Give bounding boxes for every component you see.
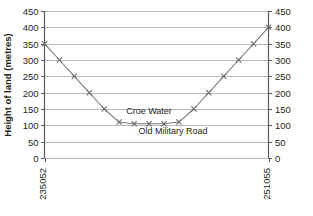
y-axis-tick-label: 350 bbox=[23, 39, 39, 50]
x-axis-label: 235052 bbox=[37, 168, 48, 200]
y-axis-tick-label: 100 bbox=[23, 120, 39, 131]
y-axis-tick-label: 0 bbox=[275, 153, 280, 164]
chart-container: 050100150200250300350400450 050100150200… bbox=[0, 0, 313, 216]
y-axis-tick-label: 100 bbox=[275, 120, 291, 131]
y-axis-tick-label: 450 bbox=[23, 6, 39, 17]
annotation-label: Old Military Road bbox=[138, 126, 207, 136]
y-axis-tick-label: 200 bbox=[23, 88, 39, 99]
y-axis-title: Height of land (metres) bbox=[2, 33, 13, 136]
y-axis-tick-label: 300 bbox=[23, 55, 39, 66]
y-axis-tick-label: 250 bbox=[275, 71, 291, 82]
y-axis-tick-label: 150 bbox=[23, 104, 39, 115]
y-axis-tick-label: 50 bbox=[28, 137, 39, 148]
y-axis-tick-label: 350 bbox=[275, 39, 291, 50]
annotation-label: Croe Water bbox=[126, 106, 172, 116]
y-axis-tick-label: 50 bbox=[275, 137, 286, 148]
y-axis-tick-label: 200 bbox=[275, 88, 291, 99]
land-profile-chart: 050100150200250300350400450 050100150200… bbox=[0, 0, 313, 216]
y-axis-tick-label: 0 bbox=[33, 153, 38, 164]
y-axis-tick-label: 300 bbox=[275, 55, 291, 66]
y-axis-tick-label: 400 bbox=[275, 22, 291, 33]
x-axis-label: 251055 bbox=[261, 168, 272, 200]
y-axis-tick-label: 150 bbox=[275, 104, 291, 115]
y-axis-tick-label: 400 bbox=[23, 22, 39, 33]
y-axis-tick-label: 250 bbox=[23, 71, 39, 82]
y-axis-tick-label: 450 bbox=[275, 6, 291, 17]
